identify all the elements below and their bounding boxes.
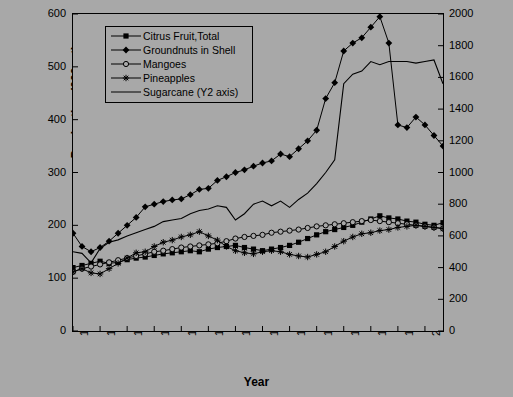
legend-item: Pineapples <box>109 71 249 85</box>
legend-marker-icon <box>109 71 143 85</box>
y-tick-label-right: 1400 <box>449 102 489 114</box>
y-tick-label-left: 600 <box>32 7 66 19</box>
legend-label: Groundnuts in Shell <box>143 43 235 57</box>
x-axis-title: Year <box>0 375 513 389</box>
legend-marker-icon <box>109 57 143 71</box>
legend-label: Pineapples <box>143 71 195 85</box>
legend-label: Mangoes <box>143 57 186 71</box>
legend-label: Citrus Fruit,Total <box>143 29 219 43</box>
y-tick-label-right: 1600 <box>449 70 489 82</box>
legend-label: Sugarcane (Y2 axis) <box>143 85 238 99</box>
y-tick-label-left: 500 <box>32 60 66 72</box>
legend-item: Citrus Fruit,Total <box>109 29 249 43</box>
legend-marker-icon <box>109 43 143 57</box>
y-tick-label-right: 600 <box>449 229 489 241</box>
y-tick-label-right: 1000 <box>449 166 489 178</box>
y-tick-label-left: 200 <box>32 218 66 230</box>
legend-item: Mangoes <box>109 57 249 71</box>
chart-root: Production (000 mt) Production (000 mt) … <box>0 0 513 397</box>
y-tick-label-left: 400 <box>32 113 66 125</box>
y-tick-label-right: 800 <box>449 197 489 209</box>
y-tick-label-left: 100 <box>32 271 66 283</box>
y-tick-label-left: 300 <box>32 166 66 178</box>
y-tick-label-right: 1800 <box>449 39 489 51</box>
legend-marker-icon <box>109 85 143 99</box>
y-tick-label-right: 400 <box>449 261 489 273</box>
legend: Citrus Fruit,TotalGroundnuts in ShellMan… <box>105 26 253 103</box>
legend-marker-icon <box>109 29 143 43</box>
y-tick-label-right: 200 <box>449 292 489 304</box>
y-tick-label-right: 0 <box>449 324 489 336</box>
y-tick-label-right: 2000 <box>449 7 489 19</box>
y-tick-label-left: 0 <box>32 324 66 336</box>
legend-item: Sugarcane (Y2 axis) <box>109 85 249 99</box>
legend-item: Groundnuts in Shell <box>109 43 249 57</box>
y-tick-label-right: 1200 <box>449 134 489 146</box>
